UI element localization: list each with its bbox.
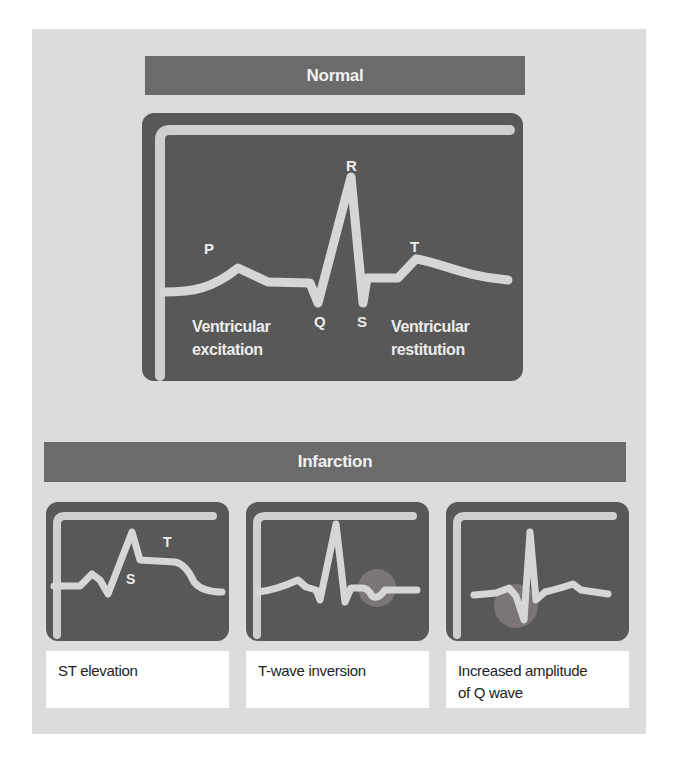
t-wave-label: T xyxy=(163,534,171,550)
t-wave-inversion-caption: T-wave inversion xyxy=(246,651,429,708)
t-wave-inversion-trace xyxy=(246,502,429,641)
q-wave-amplitude-trace xyxy=(446,502,629,641)
st-elevation-trace xyxy=(46,502,229,641)
r-wave-label: R xyxy=(346,157,357,174)
q-wave-label: Q xyxy=(314,313,325,330)
st-elevation-panel: T S xyxy=(46,502,229,641)
t-wave-inversion-panel xyxy=(246,502,429,641)
s-wave-label: S xyxy=(357,313,367,330)
t-wave-label: T xyxy=(410,238,419,255)
q-wave-amplitude-caption: Increased amplitude of Q wave xyxy=(446,651,629,708)
s-wave-label: S xyxy=(126,571,135,587)
ventricular-restitution-label: Ventricular restitution xyxy=(391,315,469,361)
normal-header: Normal xyxy=(145,56,525,95)
p-wave-label: P xyxy=(204,240,214,257)
infarction-header: Infarction xyxy=(44,442,626,482)
normal-ecg-panel: P R T Q S Ventricular excitation Ventric… xyxy=(142,113,523,381)
ventricular-excitation-label: Ventricular excitation xyxy=(192,315,270,361)
q-wave-amplitude-panel xyxy=(446,502,629,641)
st-elevation-caption: ST elevation xyxy=(46,651,229,708)
